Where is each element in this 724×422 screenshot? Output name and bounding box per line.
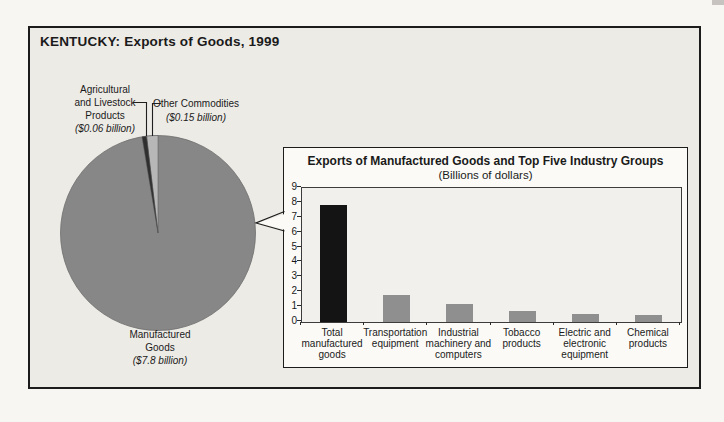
y-axis-label-7: 7 [284,211,297,222]
x-axis-category-line: Tobacco [486,327,558,338]
pie-label-manufactured-value: ($7.8 billion) [100,354,220,367]
x-axis-category-label: Totalmanufacturedgoods [296,327,368,360]
y-axis-tick [297,275,302,276]
y-axis-tick [297,305,302,306]
bar-total-manufactured-goods [320,205,347,321]
y-axis-tick [297,246,302,247]
x-axis-tick [426,322,427,325]
y-axis-tick [297,260,302,261]
x-axis-category-line: Chemical [612,327,684,338]
pie-label-other-value: ($0.15 billion) [146,111,246,125]
y-axis-label-0: 0 [284,315,297,326]
y-axis-label-1: 1 [284,300,297,311]
bar-chart-subtitle: (Billions of dollars) [284,169,687,181]
y-axis-tick [297,231,302,232]
x-axis-category-label: Transportationequipment [359,327,431,349]
figure-title: KENTUCKY: Exports of Goods, 1999 [40,34,279,49]
pie-label-agricultural-line1: Agricultural [45,83,165,96]
y-axis-tick [297,290,302,291]
scan-artifact [712,0,724,5]
x-axis-category-line: Transportation [359,327,431,338]
y-axis-label-3: 3 [284,270,297,281]
x-axis-category-line: computers [422,349,494,360]
pie-chart [58,133,258,333]
bar-electric-and-electronic-equipment [572,314,599,321]
y-axis-tick [297,320,302,321]
y-axis-label-8: 8 [284,196,297,207]
bar-tobacco-products [509,311,536,321]
x-axis-category-line: manufactured [296,338,368,349]
x-axis-category-line: machinery and [422,338,494,349]
x-axis-category-label: Electric andelectronicequipment [549,327,621,360]
y-axis-label-9: 9 [284,181,297,192]
x-axis-category-line: goods [296,349,368,360]
bar-chart-plot-area [301,187,682,323]
x-axis-category-line: equipment [549,349,621,360]
x-axis-tick [616,322,617,325]
x-axis-category-label: Chemicalproducts [612,327,684,349]
x-axis-category-label: Tobaccoproducts [486,327,558,349]
x-axis-tick [490,322,491,325]
x-axis-category-line: Electric and [549,327,621,338]
x-axis-category-line: equipment [359,338,431,349]
figure-canvas: KENTUCKY: Exports of Goods, 1999 Agricul… [0,0,724,422]
pie-label-manufactured-line2: Goods [100,341,220,354]
bar-industrial-machinery-and-computers [446,304,473,322]
bar-transportation-equipment [383,295,410,322]
x-axis-category-line: Industrial [422,327,494,338]
y-axis-label-2: 2 [284,285,297,296]
pie-label-manufactured-line1: Manufactured [100,328,220,341]
pie-label-other-name: Other Commodities [146,97,246,111]
x-axis-category-label: Industrialmachinery andcomputers [422,327,494,360]
x-axis-category-line: Total [296,327,368,338]
y-axis-label-6: 6 [284,226,297,237]
y-axis-tick [297,201,302,202]
x-axis-tick [363,322,364,325]
y-axis-tick [297,186,302,187]
x-axis-category-line: products [612,338,684,349]
x-axis-tick [300,322,301,325]
y-axis-label-5: 5 [284,241,297,252]
x-axis-category-line: products [486,338,558,349]
x-axis-tick [553,322,554,325]
y-axis-label-4: 4 [284,255,297,266]
pie-label-other-commodities: Other Commodities ($0.15 billion) [146,97,246,124]
bar-chemical-products [635,315,662,322]
bar-chart-title: Exports of Manufactured Goods and Top Fi… [284,154,687,168]
pie-label-manufactured: Manufactured Goods ($7.8 billion) [100,328,220,367]
x-axis-category-line: electronic [549,338,621,349]
x-axis-tick [679,322,680,325]
y-axis-tick [297,216,302,217]
bar-chart-panel: Exports of Manufactured Goods and Top Fi… [283,147,688,368]
